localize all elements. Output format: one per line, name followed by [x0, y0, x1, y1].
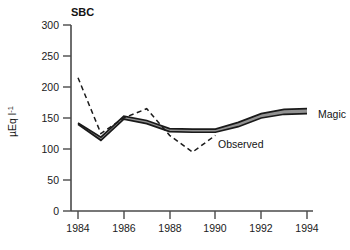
x-tick-label: 1994 [295, 222, 319, 234]
x-tick-label: 1992 [249, 222, 273, 234]
y-axis-title-exponent: -1 [6, 106, 15, 113]
sbc-line-chart: SBC µEq l-1 0 50 100 150 200 250 [0, 0, 350, 250]
chart-title: SBC [71, 6, 94, 18]
x-tick-label: 1990 [203, 222, 227, 234]
y-tick-label: 200 [41, 81, 59, 93]
y-tick-label: 50 [47, 174, 59, 186]
y-tick-label: 300 [41, 19, 59, 31]
y-tick-label: 150 [41, 112, 59, 124]
y-axis-title-text: µEq l [6, 113, 18, 137]
x-tick-label: 1988 [158, 222, 182, 234]
magic-series-label: Magic [318, 108, 346, 120]
chart-figure: SBC µEq l-1 0 50 100 150 200 250 [0, 0, 350, 250]
x-tick-label: 1984 [66, 222, 90, 234]
y-tick-label: 0 [53, 205, 59, 217]
x-tick-label: 1986 [112, 222, 136, 234]
y-tick-label: 250 [41, 50, 59, 62]
y-tick-label: 100 [41, 143, 59, 155]
observed-series-label: Observed [218, 138, 264, 150]
